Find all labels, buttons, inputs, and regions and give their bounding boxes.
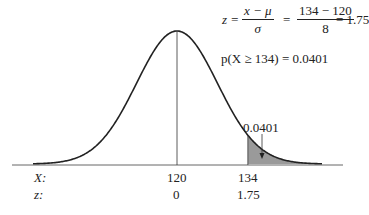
x-tick-134: 134 — [238, 171, 258, 184]
z-tick-0: 0 — [173, 188, 180, 201]
area-label: 0.0401 — [243, 121, 279, 134]
fraction-1-denominator: σ — [255, 20, 261, 35]
fraction-1-numerator: x − μ — [242, 4, 274, 20]
z-row-label: z: — [34, 188, 43, 201]
formula-result: = 1.75 — [336, 13, 369, 26]
x-row-label: X: — [34, 171, 46, 184]
formula-equals-1: = — [283, 13, 290, 26]
x-tick-120: 120 — [167, 171, 187, 184]
probability-statement: p(X ≥ 134) = 0.0401 — [221, 52, 328, 65]
formula-fraction-1: x − μ σ — [242, 4, 274, 35]
fraction-2-denominator: 8 — [322, 20, 329, 35]
formula-lhs: z = — [222, 13, 239, 26]
z-tick-175: 1.75 — [237, 188, 260, 201]
